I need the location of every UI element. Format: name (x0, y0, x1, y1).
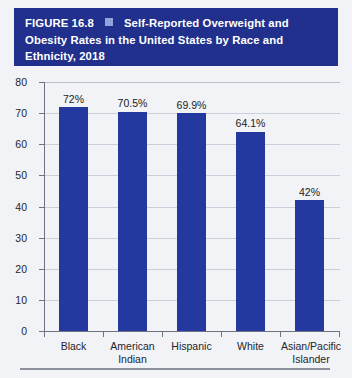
bar-asian-pacific-islander[interactable] (295, 200, 324, 331)
y-axis-label-20: 20 (0, 264, 27, 274)
y-axis-label-10: 10 (0, 295, 27, 305)
x-tick-4 (280, 332, 281, 337)
category-line: Asian/Pacific (278, 340, 344, 353)
bar-american-indian[interactable] (118, 112, 147, 331)
y-axis-label-0: 0 (0, 326, 27, 336)
figure-title-line-1: FIGURE 16.8Self-Reported Overweight and (25, 15, 328, 32)
y-axis-label-50: 50 (0, 170, 27, 180)
y-tick-80 (39, 82, 44, 83)
x-axis-category-american-indian: American Indian (103, 340, 162, 365)
category-line: White (221, 340, 280, 353)
x-tick-5 (339, 332, 340, 337)
bar-value-label-american-indian: 70.5% (109, 98, 156, 109)
x-axis-category-hispanic: Hispanic (162, 340, 221, 353)
figure-title-banner: FIGURE 16.8Self-Reported Overweight and … (14, 8, 338, 66)
y-tick-10 (39, 300, 44, 301)
bar-hispanic[interactable] (177, 113, 206, 331)
gridline-80 (44, 82, 340, 83)
category-line: Hispanic (162, 340, 221, 353)
y-axis-label-70: 70 (0, 108, 27, 118)
y-tick-30 (39, 238, 44, 239)
y-tick-50 (39, 175, 44, 176)
x-tick-0 (44, 332, 45, 337)
y-axis-label-60: 60 (0, 139, 27, 149)
category-line: Black (44, 340, 103, 353)
y-tick-20 (39, 269, 44, 270)
bar-value-label-hispanic: 69.9% (168, 100, 215, 111)
category-line: Islander (278, 353, 344, 366)
square-marker-icon (105, 18, 113, 26)
category-line: Indian (103, 353, 162, 366)
plot-area: 80 70 60 50 40 30 20 10 0 72% 70.5% 69.9… (44, 82, 340, 331)
y-axis-label-80: 80 (0, 77, 27, 87)
figure-title-line-2: Obesity Rates in the United States by Ra… (25, 32, 328, 49)
bar-value-label-white: 64.1% (227, 118, 274, 129)
x-tick-2 (162, 332, 163, 337)
bar-white[interactable] (236, 132, 265, 332)
bar-value-label-asian-pacific-islander: 42% (286, 187, 333, 198)
y-axis-label-30: 30 (0, 233, 27, 243)
x-axis-category-white: White (221, 340, 280, 353)
bar-value-label-black: 72% (50, 94, 97, 105)
figure-number-label: FIGURE 16.8 (25, 17, 94, 29)
x-tick-3 (221, 332, 222, 337)
figure-title-text-1: Self-Reported Overweight and (124, 17, 289, 29)
x-tick-1 (103, 332, 104, 337)
footer-divider (20, 368, 330, 370)
x-axis-category-black: Black (44, 340, 103, 353)
x-axis-category-asian-pacific-islander: Asian/Pacific Islander (278, 340, 344, 365)
y-tick-60 (39, 144, 44, 145)
y-axis-label-40: 40 (0, 202, 27, 212)
bar-chart: 80 70 60 50 40 30 20 10 0 72% 70.5% 69.9… (0, 70, 352, 360)
bar-black[interactable] (59, 107, 88, 331)
x-axis-line (44, 331, 340, 332)
y-axis-line (44, 82, 45, 332)
figure-title-line-3: Ethnicity, 2018 (25, 48, 328, 65)
y-tick-70 (39, 113, 44, 114)
category-line: American (103, 340, 162, 353)
y-tick-40 (39, 207, 44, 208)
